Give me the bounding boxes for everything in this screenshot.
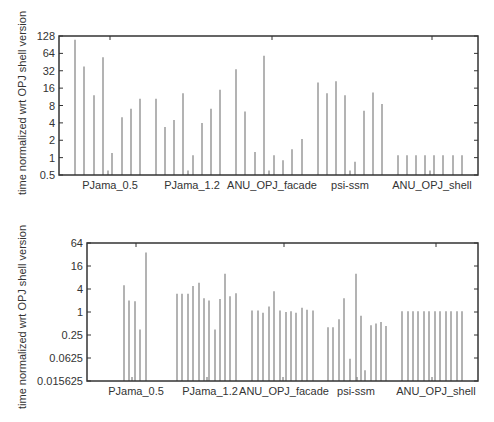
top-bars — [75, 40, 462, 175]
bottom-chart: time normalized wrt OPJ shell version 64… — [16, 225, 478, 409]
top-chart: time normalized wrt OPJ shell version 12… — [16, 11, 478, 195]
y-tick-label: 32 — [43, 65, 55, 77]
y-tick-label: 1 — [49, 152, 55, 164]
top-y-axis-label: time normalized wrt OPJ shell version — [16, 11, 28, 195]
bottom-bars — [124, 253, 462, 381]
y-tick-label: 4 — [49, 117, 55, 129]
y-tick-label: 2 — [49, 134, 55, 146]
x-category-label: PJama_1.2 — [182, 385, 238, 397]
x-category-label: ANU_OPJ_shell — [392, 179, 471, 191]
x-category-label: ANU_OPJ_facade — [227, 179, 317, 191]
y-tick-label: 64 — [71, 237, 83, 249]
y-tick-label: 4 — [77, 283, 83, 295]
bottom-y-axis-label: time normalized wrt OPJ shell version — [16, 225, 28, 409]
x-category-label: ANU_OPJ_shell — [396, 385, 475, 397]
y-tick-label: 64 — [43, 47, 55, 59]
y-tick-label: 0.015625 — [37, 375, 83, 387]
figure: time normalized wrt OPJ shell version 12… — [0, 0, 494, 422]
y-tick-label: 0.0625 — [49, 352, 83, 364]
y-tick-label: 0.5 — [40, 169, 55, 181]
y-tick-label: 8 — [49, 100, 55, 112]
x-category-label: PJama_0.5 — [82, 179, 138, 191]
x-category-label: psi-ssm — [337, 385, 375, 397]
y-tick-label: 16 — [71, 260, 83, 272]
y-tick-label: 16 — [43, 82, 55, 94]
bottom-x-categories: PJama_0.5PJama_1.2ANU_OPJ_facadepsi-ssmA… — [108, 243, 476, 397]
x-category-label: ANU_OPJ_facade — [239, 385, 329, 397]
y-tick-label: 128 — [37, 30, 55, 42]
x-category-label: PJama_0.5 — [108, 385, 164, 397]
y-tick-label: 0.25 — [62, 329, 83, 341]
x-category-label: psi-ssm — [331, 179, 369, 191]
top-x-categories: PJama_0.5PJama_1.2ANU_OPJ_facadepsi-ssmA… — [82, 36, 472, 191]
x-category-label: PJama_1.2 — [164, 179, 220, 191]
y-tick-label: 1 — [77, 306, 83, 318]
